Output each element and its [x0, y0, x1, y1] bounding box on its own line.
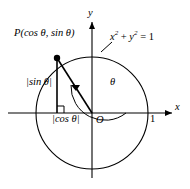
- equation-equals-one: = 1: [138, 31, 154, 42]
- sin-segment-label: |sin θ|: [26, 77, 52, 88]
- unit-circle-figure: P(cos θ, sin θ) x2 + y2 = 1 |sin θ| |cos…: [0, 0, 190, 189]
- right-angle-marker: [57, 106, 64, 113]
- y-axis-arrowhead: [89, 22, 95, 29]
- point-p-marker: [54, 55, 60, 61]
- unit-tick-label: 1: [150, 114, 155, 125]
- x-axis-label: x: [175, 102, 180, 113]
- origin-label: O: [96, 115, 104, 126]
- x-axis-arrowhead: [165, 110, 172, 116]
- angle-arc-arrowhead: [71, 85, 80, 91]
- angle-theta-label: θ: [110, 77, 115, 88]
- equation-plus: +: [118, 31, 129, 42]
- cos-segment-label: |cos θ|: [52, 114, 80, 125]
- circle-equation-label: x2 + y2 = 1: [110, 30, 154, 42]
- equation-leader-line: [101, 42, 112, 52]
- point-p-label: P(cos θ, sin θ): [14, 28, 74, 39]
- y-axis-label: y: [88, 8, 93, 19]
